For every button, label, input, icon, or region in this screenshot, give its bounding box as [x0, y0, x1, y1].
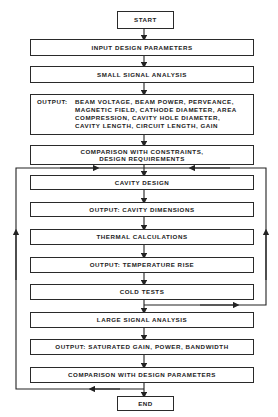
- thermal-calculations-node: THERMAL CALCULATIONS: [30, 229, 254, 245]
- output-line: COMPRESSION, CAVITY HOLE DIAMETER,: [75, 114, 253, 122]
- large-signal-label: LARGE SIGNAL ANALYSIS: [97, 316, 187, 324]
- thermal-label: THERMAL CALCULATIONS: [96, 233, 187, 241]
- small-signal-analysis-node: SMALL SIGNAL ANALYSIS: [30, 66, 254, 83]
- comparison-line: DESIGN REQUIREMENTS: [99, 155, 185, 162]
- output-line: CAVITY LENGTH, CIRCUIT LENGTH, GAIN: [75, 122, 253, 130]
- end-label: END: [138, 400, 153, 408]
- output-line: MAGNETIC FIELD, CATHODE DIAMETER, AREA: [75, 106, 253, 114]
- input-label: INPUT DESIGN PARAMETERS: [91, 44, 192, 52]
- output-cavity-label: OUTPUT: CAVITY DIMENSIONS: [89, 206, 194, 214]
- output-line: BEAM VOLTAGE, BEAM POWER, PERVEANCE,: [75, 98, 253, 106]
- output-temperature-node: OUTPUT: TEMPERATURE RISE: [30, 257, 254, 273]
- cavity-design-node: CAVITY DESIGN: [30, 175, 254, 190]
- input-design-parameters-node: INPUT DESIGN PARAMETERS: [30, 39, 254, 56]
- cavity-design-label: CAVITY DESIGN: [115, 179, 170, 187]
- output-temp-label: OUTPUT: TEMPERATURE RISE: [90, 261, 195, 269]
- output-saturated-label: OUTPUT: SATURATED GAIN, POWER, BANDWIDTH: [55, 343, 228, 351]
- comparison-line: COMPARISON WITH CONSTRAINTS,: [80, 148, 203, 155]
- start-node: START: [117, 11, 174, 29]
- comparison-design-label: COMPARISON WITH DESIGN PARAMETERS: [68, 371, 216, 379]
- large-signal-analysis-node: LARGE SIGNAL ANALYSIS: [30, 312, 254, 328]
- comparison-constraints-node: COMPARISON WITH CONSTRAINTS, DESIGN REQU…: [30, 145, 254, 165]
- output-saturated-node: OUTPUT: SATURATED GAIN, POWER, BANDWIDTH: [30, 339, 254, 355]
- output-cavity-dimensions-node: OUTPUT: CAVITY DIMENSIONS: [30, 202, 254, 217]
- cold-tests-node: COLD TESTS: [30, 284, 254, 300]
- output-label: OUTPUT:: [37, 98, 75, 106]
- end-node: END: [117, 396, 174, 411]
- output-parameters-node: OUTPUT: BEAM VOLTAGE, BEAM POWER, PERVEA…: [30, 94, 254, 135]
- start-label: START: [134, 16, 157, 24]
- cold-tests-label: COLD TESTS: [120, 288, 165, 296]
- small-signal-label: SMALL SIGNAL ANALYSIS: [97, 71, 187, 79]
- comparison-design-node: COMPARISON WITH DESIGN PARAMETERS: [30, 367, 254, 383]
- output-values: BEAM VOLTAGE, BEAM POWER, PERVEANCE, MAG…: [75, 98, 253, 130]
